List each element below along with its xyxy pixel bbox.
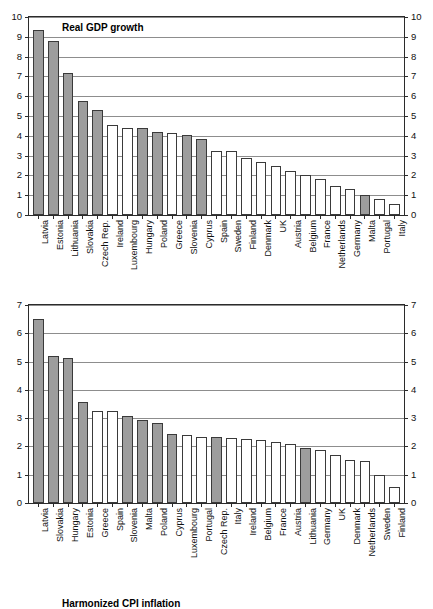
bar-cell: [298, 305, 313, 503]
bar-cell: [194, 305, 209, 503]
x-axis-tick: [150, 215, 165, 219]
y-axis-tick-right: [404, 17, 408, 18]
x-axis-tick-mark: [394, 503, 395, 507]
bar-cell: [46, 17, 61, 215]
y-axis-label-right: 9: [411, 32, 416, 42]
y-axis-label-right: 5: [411, 111, 416, 121]
x-axis-label-cell: Luxembourg: [179, 508, 194, 580]
bar-belgium[interactable]: [256, 440, 267, 503]
bar-sweden[interactable]: [374, 475, 385, 503]
bar-poland[interactable]: [152, 423, 163, 503]
bar-spain[interactable]: [107, 411, 118, 503]
bar-sweden[interactable]: [226, 151, 237, 215]
bar-malta[interactable]: [360, 195, 371, 215]
x-axis-label-cell: Denmark: [254, 220, 269, 292]
bar-cell: [224, 305, 239, 503]
bar-cyprus[interactable]: [196, 139, 207, 215]
bar-czech-rep[interactable]: [211, 437, 222, 503]
x-axis-tick: [313, 215, 328, 219]
bar-austria[interactable]: [285, 171, 296, 215]
bar-finland[interactable]: [389, 487, 400, 503]
x-axis-tick-mark: [246, 503, 247, 507]
x-axis-label-cell: Estonia: [46, 220, 61, 292]
bar-estonia[interactable]: [48, 41, 59, 215]
bar-netherlands[interactable]: [360, 461, 371, 503]
y-axis-tick-right: [404, 195, 408, 196]
x-axis-tick-mark: [38, 503, 39, 507]
bar-uk[interactable]: [330, 455, 341, 503]
bar-germany[interactable]: [315, 450, 326, 503]
bar-netherlands[interactable]: [330, 186, 341, 215]
bar-cell: [179, 17, 194, 215]
x-axis-tick-mark: [305, 503, 306, 507]
bar-cell: [269, 305, 284, 503]
x-axis-tick: [328, 215, 343, 219]
bar-cyprus[interactable]: [167, 434, 178, 503]
x-axis-tick: [31, 503, 46, 507]
bar-luxembourg[interactable]: [122, 128, 133, 215]
y-axis-tick-right: [404, 136, 408, 137]
x-axis-tick-mark: [216, 503, 217, 507]
bar-estonia[interactable]: [78, 402, 89, 503]
y-axis-label-right: 3: [411, 413, 416, 423]
x-axis-tick: [283, 215, 298, 219]
y-axis-label-right: 1: [411, 190, 416, 200]
bar-cell: [76, 17, 91, 215]
bar-slovakia[interactable]: [78, 101, 89, 215]
bar-greece[interactable]: [167, 133, 178, 215]
bar-italy[interactable]: [389, 204, 400, 215]
x-axis-label-cell: Greece: [90, 508, 105, 580]
x-axis-label-cell: Slovenia: [179, 220, 194, 292]
y-axis-label-left: 0: [17, 210, 22, 220]
x-axis-tick-mark: [157, 503, 158, 507]
bar-ireland[interactable]: [107, 125, 118, 215]
bar-portugal[interactable]: [196, 437, 207, 503]
chart-title-real-gdp-growth: Real GDP growth: [62, 22, 144, 33]
bar-cell: [105, 17, 120, 215]
x-axis-tick-mark: [201, 215, 202, 219]
bar-austria[interactable]: [285, 444, 296, 503]
bar-portugal[interactable]: [374, 199, 385, 215]
x-axis-label-cell: Belgium: [298, 220, 313, 292]
x-axis-tick-mark: [97, 503, 98, 507]
bar-greece[interactable]: [92, 411, 103, 503]
bar-hungary[interactable]: [63, 358, 74, 503]
bar-cell: [343, 17, 358, 215]
bar-luxembourg[interactable]: [182, 435, 193, 503]
x-axis-tick-mark: [172, 503, 173, 507]
bar-ireland[interactable]: [241, 439, 252, 503]
bar-slovenia[interactable]: [122, 416, 133, 503]
bar-lithuania[interactable]: [63, 73, 74, 215]
x-axis-tick: [387, 503, 402, 507]
bar-belgium[interactable]: [300, 175, 311, 215]
bar-slovakia[interactable]: [48, 356, 59, 503]
x-axis-label-cell: Lithuania: [61, 220, 76, 292]
bar-finland[interactable]: [241, 158, 252, 215]
bar-uk[interactable]: [271, 166, 282, 216]
y-axis-tick-right: [404, 175, 408, 176]
bar-czech-rep[interactable]: [92, 110, 103, 215]
bar-poland[interactable]: [152, 132, 163, 215]
x-axis-tick: [269, 215, 284, 219]
bar-hungary[interactable]: [137, 128, 148, 215]
y-axis-label-left: 3: [17, 151, 22, 161]
bar-denmark[interactable]: [256, 162, 267, 215]
bar-malta[interactable]: [137, 420, 148, 503]
bar-germany[interactable]: [345, 189, 356, 215]
bar-france[interactable]: [315, 179, 326, 215]
bar-denmark[interactable]: [345, 460, 356, 503]
bar-france[interactable]: [271, 442, 282, 503]
bar-spain[interactable]: [211, 151, 222, 215]
x-axis-label-cell: Netherlands: [328, 220, 343, 292]
y-axis-tick-right: [404, 418, 408, 419]
bar-lithuania[interactable]: [300, 448, 311, 503]
bar-latvia[interactable]: [33, 319, 44, 503]
bar-slovenia[interactable]: [182, 135, 193, 215]
bar-cell: [387, 17, 402, 215]
x-axis-label-cell: Czech Rep.: [90, 220, 105, 292]
x-axis-label-cell: Malta: [358, 220, 373, 292]
bar-latvia[interactable]: [33, 30, 44, 215]
x-axis-category-labels: LatviaSlovakiaHungaryEstoniaGreeceSpainS…: [29, 508, 404, 580]
x-axis-tick: [298, 215, 313, 219]
bar-italy[interactable]: [226, 438, 237, 503]
